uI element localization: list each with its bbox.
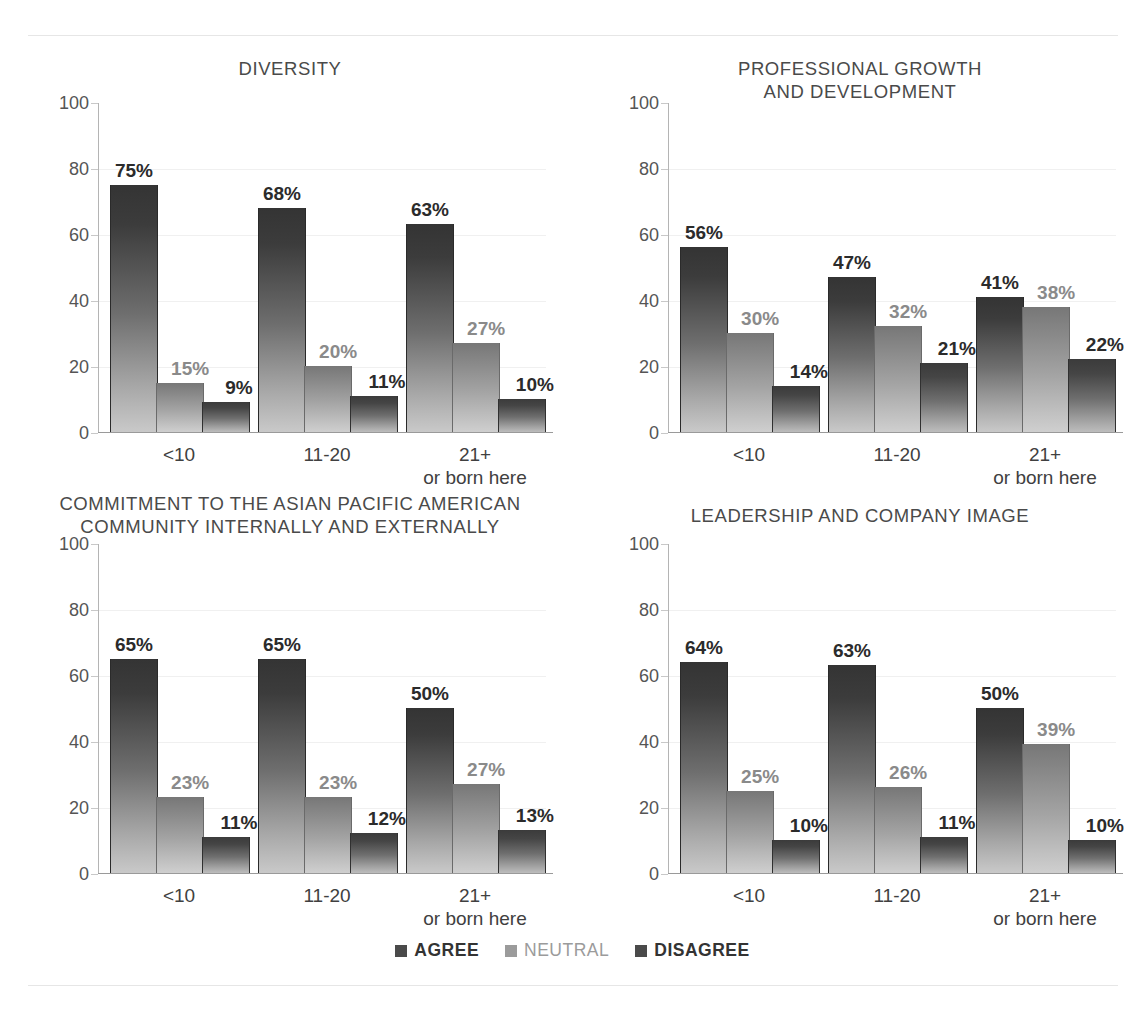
y-axis-line <box>98 544 99 874</box>
bar[interactable]: 23% <box>156 797 204 873</box>
y-tick-label: 80 <box>69 600 89 621</box>
bar[interactable]: 50% <box>976 708 1024 873</box>
legend-item-disagree[interactable]: DISAGREE <box>635 940 749 961</box>
bar[interactable]: 75% <box>110 185 158 433</box>
bar-value-label: 10% <box>1086 815 1124 837</box>
y-axis-line <box>668 103 669 433</box>
bar[interactable]: 14% <box>772 386 820 432</box>
legend-swatch-icon <box>635 945 647 957</box>
bar[interactable]: 21% <box>920 363 968 432</box>
bar-value-label: 68% <box>263 183 301 205</box>
y-tick-label: 40 <box>69 732 89 753</box>
x-axis-label: 11-20 <box>252 884 402 907</box>
bar-value-label: 32% <box>889 301 927 323</box>
bar[interactable]: 26% <box>874 787 922 873</box>
bar[interactable]: 56% <box>680 247 728 432</box>
y-tick-label: 20 <box>69 357 89 378</box>
bar-group: 63%26%11% <box>828 543 966 873</box>
bar-value-label: 65% <box>115 634 153 656</box>
bar-group: 64%25%10% <box>680 543 818 873</box>
bar-group: 65%23%12% <box>258 543 396 873</box>
bar[interactable]: 11% <box>350 396 398 432</box>
bar-value-label: 64% <box>685 637 723 659</box>
chart-panel-leadership-company-image: LEADERSHIP AND COMPANY IMAGE 10080604020… <box>580 492 1140 932</box>
y-tick-mark <box>661 367 668 368</box>
y-tick-label: 100 <box>629 93 659 114</box>
y-tick-label: 0 <box>79 423 89 444</box>
bar[interactable]: 10% <box>498 399 546 432</box>
bar[interactable]: 27% <box>452 784 500 873</box>
bar[interactable]: 13% <box>498 830 546 873</box>
bar[interactable]: 15% <box>156 383 204 433</box>
y-tick-mark <box>661 235 668 236</box>
bar[interactable]: 63% <box>828 665 876 873</box>
bar-value-label: 22% <box>1086 334 1124 356</box>
bar-value-label: 10% <box>790 815 828 837</box>
bar[interactable]: 11% <box>920 837 968 873</box>
bar[interactable]: 27% <box>452 343 500 432</box>
y-tick-mark <box>661 676 668 677</box>
y-tick-mark <box>661 169 668 170</box>
bar[interactable]: 23% <box>304 797 352 873</box>
bar[interactable]: 65% <box>258 659 306 874</box>
bar-group: 50%39%10% <box>976 543 1114 873</box>
y-tick-mark <box>91 169 98 170</box>
y-tick-label: 20 <box>639 357 659 378</box>
bar[interactable]: 68% <box>258 208 306 432</box>
bar[interactable]: 63% <box>406 224 454 432</box>
y-tick-mark <box>91 367 98 368</box>
bar[interactable]: 9% <box>202 402 250 432</box>
y-tick-label: 60 <box>639 225 659 246</box>
bar-value-label: 13% <box>516 805 554 827</box>
bar-group: 56%30%14% <box>680 102 818 432</box>
x-axis-label: <10 <box>104 884 254 907</box>
bar[interactable]: 50% <box>406 708 454 873</box>
bar[interactable]: 11% <box>202 837 250 873</box>
x-axis-label: <10 <box>104 443 254 466</box>
bar-value-label: 50% <box>981 683 1019 705</box>
chart-panel-diversity: DIVERSITY 10080604020075%15%9%<1068%20%1… <box>10 45 570 485</box>
legend-label: DISAGREE <box>654 940 749 961</box>
bar[interactable]: 41% <box>976 297 1024 432</box>
plot-area: 10080604020056%30%14%<1047%32%21%11-2041… <box>668 103 1116 433</box>
bar-value-label: 63% <box>833 640 871 662</box>
plot-area: 10080604020065%23%11%<1065%23%12%11-2050… <box>98 544 546 874</box>
bar-value-label: 14% <box>790 361 828 383</box>
bar-value-label: 56% <box>685 222 723 244</box>
legend-item-neutral[interactable]: NEUTRAL <box>505 940 609 961</box>
chart-panel-professional-growth: PROFESSIONAL GROWTH AND DEVELOPMENT 1008… <box>580 45 1140 485</box>
bar[interactable]: 64% <box>680 662 728 873</box>
bar[interactable]: 20% <box>304 366 352 432</box>
bar-group: 65%23%11% <box>110 543 248 873</box>
bar-value-label: 27% <box>467 318 505 340</box>
legend-item-agree[interactable]: AGREE <box>395 940 479 961</box>
bar-group: 75%15%9% <box>110 102 248 432</box>
bar[interactable]: 32% <box>874 326 922 432</box>
y-tick-mark <box>661 103 668 104</box>
bar-value-label: 23% <box>171 772 209 794</box>
y-tick-label: 100 <box>629 534 659 555</box>
bar-group: 63%27%10% <box>406 102 544 432</box>
bar[interactable]: 22% <box>1068 359 1116 432</box>
y-tick-mark <box>661 544 668 545</box>
bar[interactable]: 10% <box>1068 840 1116 873</box>
bar[interactable]: 38% <box>1022 307 1070 432</box>
y-tick-label: 40 <box>639 732 659 753</box>
x-axis-label: <10 <box>674 443 824 466</box>
bar[interactable]: 65% <box>110 659 158 874</box>
y-axis-line <box>668 544 669 874</box>
x-axis-label: <10 <box>674 884 824 907</box>
y-tick-mark <box>661 742 668 743</box>
x-axis-label: 21+ or born here <box>400 884 550 930</box>
bar[interactable]: 10% <box>772 840 820 873</box>
bar[interactable]: 30% <box>726 333 774 432</box>
y-tick-mark <box>661 874 668 875</box>
y-tick-label: 60 <box>639 666 659 687</box>
bar[interactable]: 39% <box>1022 744 1070 873</box>
y-tick-label: 100 <box>59 93 89 114</box>
bar[interactable]: 12% <box>350 833 398 873</box>
bar[interactable]: 47% <box>828 277 876 432</box>
bar[interactable]: 25% <box>726 791 774 874</box>
y-tick-mark <box>661 610 668 611</box>
bar-value-label: 30% <box>741 308 779 330</box>
